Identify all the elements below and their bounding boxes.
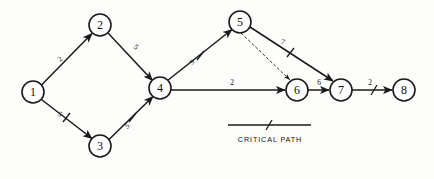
edge-label-7-to-8: 2 — [368, 78, 372, 87]
edge-labels-group: 2 5 5 5 9 2 7 6 2 — [56, 37, 372, 130]
edge-4-to-5[interactable] — [168, 30, 233, 81]
edge-1-to-3[interactable] — [42, 100, 93, 139]
node-3[interactable]: 3 — [89, 135, 111, 157]
node-4[interactable]: 4 — [149, 77, 171, 99]
node-8[interactable]: 8 — [393, 79, 415, 101]
hatch-mark-edge-3-to-4 — [129, 113, 136, 122]
node-3-label: 3 — [97, 139, 103, 153]
node-5-label: 5 — [237, 15, 243, 29]
node-5[interactable]: 5 — [229, 11, 251, 33]
node-7[interactable]: 7 — [330, 79, 352, 101]
edge-label-2-to-4: 5 — [132, 42, 141, 51]
edge-label-6-to-7: 6 — [317, 78, 321, 87]
legend: CRITICAL PATH — [228, 120, 311, 144]
node-2-label: 2 — [97, 18, 103, 32]
activity-network-svg: 2 5 5 5 9 2 7 6 2 1 2 3 — [0, 0, 434, 179]
edge-label-4-to-6: 2 — [230, 78, 234, 87]
edge-label-5-to-7: 7 — [280, 37, 286, 47]
node-6[interactable]: 6 — [286, 79, 308, 101]
edge-2-to-4[interactable] — [108, 33, 153, 81]
node-1-label: 1 — [30, 85, 36, 99]
node-2[interactable]: 2 — [89, 14, 111, 36]
node-8-label: 8 — [401, 83, 407, 97]
edge-1-to-2[interactable] — [42, 34, 93, 86]
node-4-label: 4 — [157, 81, 163, 95]
node-1[interactable]: 1 — [22, 81, 44, 103]
edge-3-to-4[interactable] — [109, 97, 153, 140]
legend-label: CRITICAL PATH — [238, 135, 302, 144]
diagram-canvas: 2 5 5 5 9 2 7 6 2 1 2 3 — [0, 0, 434, 179]
node-7-label: 7 — [338, 83, 344, 97]
node-6-label: 6 — [294, 83, 300, 97]
nodes-group: 1 2 3 4 5 6 7 — [22, 11, 415, 157]
